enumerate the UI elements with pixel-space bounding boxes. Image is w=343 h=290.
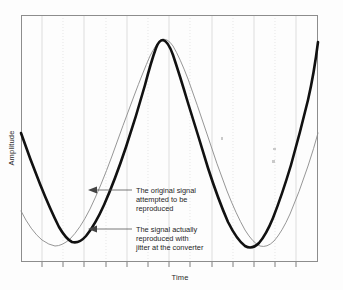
- annotation-original-line2: attempted to be: [136, 195, 187, 204]
- annotation-original-line3: reproduced: [136, 204, 173, 213]
- x-axis-label: Time: [171, 273, 188, 282]
- y-axis-label: Amplitude: [7, 130, 16, 165]
- figure-container: The original signal attempted to be repr…: [0, 0, 343, 290]
- annotation-jitter-line3: jitter at the converter: [135, 243, 204, 252]
- annotation-jitter-line2: reproduced with: [136, 234, 189, 243]
- signal-jitter-chart: The original signal attempted to be repr…: [0, 0, 343, 290]
- arrow-left-icon: [88, 187, 97, 194]
- annotation-original-signal: The original signal attempted to be repr…: [88, 186, 196, 213]
- scan-speck: [273, 148, 276, 150]
- scan-artifacts: [221, 137, 276, 163]
- scan-speck: [221, 137, 223, 140]
- curve-original-signal: [21, 40, 318, 247]
- axis-ticks: [42, 262, 296, 267]
- annotation-original-line1: The original signal: [136, 186, 196, 195]
- scan-speck: [272, 160, 275, 163]
- annotation-jittered-signal: The signal actually reproduced with jitt…: [88, 225, 204, 252]
- annotation-jitter-line1: The signal actually: [136, 225, 198, 234]
